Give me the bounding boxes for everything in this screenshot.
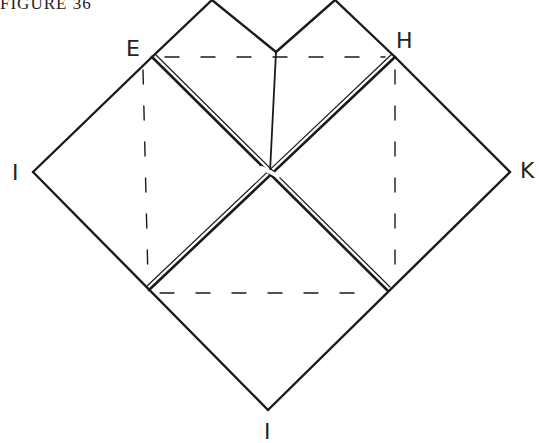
top-flap-edges xyxy=(152,0,395,57)
label-H: H xyxy=(396,30,413,52)
outer-edge-left-bottom xyxy=(33,172,268,410)
label-E: E xyxy=(126,38,140,60)
label-K: K xyxy=(520,160,534,182)
center-vertical-crease xyxy=(270,52,276,172)
label-J: I xyxy=(264,421,271,443)
outer-edge-right-top xyxy=(395,57,510,172)
outer-edge-left-top xyxy=(33,57,152,172)
dashed-left xyxy=(143,70,148,280)
label-I: I xyxy=(12,162,19,184)
